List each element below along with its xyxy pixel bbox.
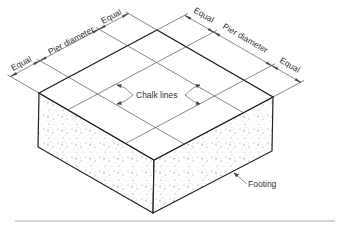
label-footing: Footing [248, 179, 277, 189]
label-chalk-lines: Chalk lines [136, 90, 178, 100]
footing-diagram: Equal Pier diameter Equal Equal Pier dia… [0, 0, 342, 229]
label-right-equal-2: Equal [278, 55, 302, 75]
label-right-pier-diameter: Pier diameter [221, 21, 270, 55]
label-left-equal-1: Equal [9, 54, 33, 73]
footing-leader [234, 173, 247, 184]
label-left-pier-diameter: Pier diameter [46, 24, 95, 57]
